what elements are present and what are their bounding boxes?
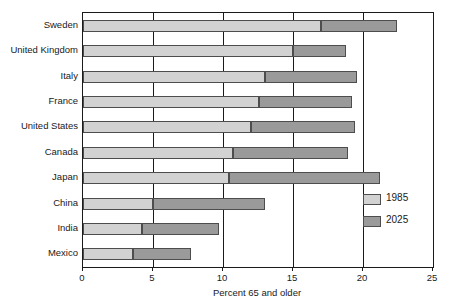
bar-row (83, 121, 433, 133)
y-axis-label-india: India (2, 223, 78, 233)
bar-segment-2025 (259, 96, 351, 108)
y-axis-label-france: France (2, 96, 78, 106)
y-axis-label-china: China (2, 198, 78, 208)
y-axis-category-labels: SwedenUnited KingdomItalyFranceUnited St… (0, 12, 78, 266)
legend-swatch-2025 (363, 216, 381, 227)
bar-segment-1985 (83, 172, 229, 184)
x-tick-label-5: 5 (149, 272, 154, 283)
bar-segment-1985 (83, 223, 142, 235)
bar-segment-2025 (251, 121, 355, 133)
bar-row (83, 172, 433, 184)
x-tick-mark-5 (152, 267, 153, 271)
bar-segment-1985 (83, 198, 153, 210)
plot-area (82, 12, 434, 268)
bar-segment-2025 (233, 147, 348, 159)
x-tick-label-0: 0 (79, 272, 84, 283)
x-tick-label-20: 20 (357, 272, 368, 283)
y-axis-label-japan: Japan (2, 172, 78, 182)
x-tick-mark-25 (432, 267, 433, 271)
bar-segment-1985 (83, 45, 293, 57)
bar-row (83, 45, 433, 57)
chart-container: SwedenUnited KingdomItalyFranceUnited St… (0, 0, 465, 303)
bar-segment-1985 (83, 96, 259, 108)
bar-row (83, 147, 433, 159)
bar-row (83, 96, 433, 108)
y-axis-label-canada: Canada (2, 147, 78, 157)
bar-segment-2025 (133, 248, 190, 260)
x-tick-label-10: 10 (217, 272, 228, 283)
x-tick-label-15: 15 (287, 272, 298, 283)
bar-segment-1985 (83, 248, 133, 260)
legend-swatch-1985 (363, 194, 381, 205)
bar-row (83, 20, 433, 32)
legend-label-2025: 2025 (386, 214, 408, 225)
y-axis-label-sweden: Sweden (2, 20, 78, 30)
x-axis-label: Percent 65 and older (82, 287, 432, 298)
legend-label-1985: 1985 (386, 192, 408, 203)
bar-row (83, 248, 433, 260)
y-axis-label-united-states: United States (2, 121, 78, 131)
y-axis-label-united-kingdom: United Kingdom (2, 45, 78, 55)
bar-row (83, 71, 433, 83)
bar-segment-1985 (83, 121, 251, 133)
bar-segment-1985 (83, 71, 265, 83)
y-axis-label-italy: Italy (2, 71, 78, 81)
bar-segment-2025 (142, 223, 219, 235)
y-axis-label-mexico: Mexico (2, 248, 78, 258)
bar-segment-2025 (153, 198, 265, 210)
x-tick-mark-15 (292, 267, 293, 271)
bar-segment-2025 (293, 45, 346, 57)
x-tick-mark-0 (82, 267, 83, 271)
bar-segment-1985 (83, 20, 321, 32)
x-tick-label-25: 25 (427, 272, 438, 283)
bar-segment-2025 (321, 20, 397, 32)
bar-segment-1985 (83, 147, 233, 159)
x-tick-mark-20 (362, 267, 363, 271)
bar-segment-2025 (265, 71, 357, 83)
x-tick-mark-10 (222, 267, 223, 271)
bar-segment-2025 (229, 172, 380, 184)
